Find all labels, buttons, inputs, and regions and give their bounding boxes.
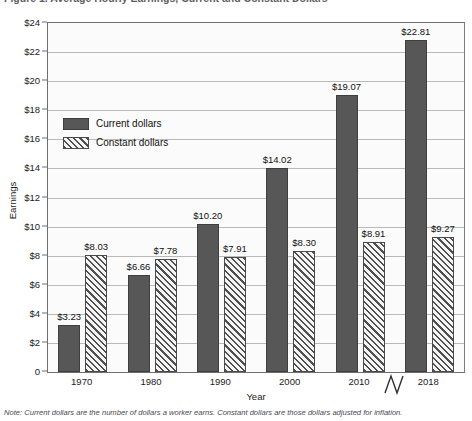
x-axis-tick-label: 2000 (279, 376, 300, 387)
bar-current-1970 (58, 325, 80, 372)
bar-value-label: $7.91 (223, 243, 247, 254)
gridline (48, 110, 464, 111)
x-axis-tick-label: 2018 (418, 376, 439, 387)
figure-title: Figure 1. Average Hourly Earnings, Curre… (0, 0, 472, 5)
bar-value-label: $6.66 (127, 261, 151, 272)
bar-constant-1990 (224, 257, 246, 372)
legend-label-constant: Constant dollars (96, 137, 168, 148)
x-axis-tick-label: 2010 (348, 376, 369, 387)
y-axis-tick-label: $2 (29, 336, 40, 347)
bar-current-2000 (266, 168, 288, 372)
legend-item-current: Current dollars (63, 115, 168, 132)
gridline (48, 81, 464, 82)
x-axis-tick-label: 1980 (140, 376, 161, 387)
bar-value-label: $8.30 (292, 237, 316, 248)
y-axis-tick-label: $16 (24, 133, 40, 144)
legend-swatch-constant-icon (63, 137, 89, 149)
bar-current-1980 (128, 275, 150, 372)
bar-constant-2018 (432, 237, 454, 372)
y-axis: Earnings 0$2$4$6$8$10$12$14$16$18$20$22$… (0, 22, 47, 373)
bar-value-label: $8.91 (362, 228, 386, 239)
x-axis-tick-label: 1990 (210, 376, 231, 387)
y-axis-tick-label: $12 (24, 191, 40, 202)
plot-area: $3.23$8.03$6.66$7.78$10.20$7.91$14.02$8.… (47, 22, 465, 373)
y-axis-tick-label: $22 (24, 46, 40, 57)
bar-value-label: $22.81 (401, 26, 430, 37)
bar-value-label: $19.07 (332, 81, 361, 92)
gridline (48, 285, 464, 286)
bar-value-label: $3.23 (57, 311, 81, 322)
gridline (48, 256, 464, 257)
bar-value-label: $9.27 (431, 223, 455, 234)
y-axis-tick-label: $20 (24, 75, 40, 86)
y-axis-tick-label: $4 (29, 307, 40, 318)
y-axis-tick-label: $8 (29, 249, 40, 260)
figure-note: Note: Current dollars are the number of … (4, 408, 470, 417)
y-axis-title: Earnings (7, 171, 18, 231)
bar-value-label: $8.03 (84, 241, 108, 252)
bar-current-2018 (405, 40, 427, 372)
bar-value-label: $7.78 (154, 245, 178, 256)
legend-label-current: Current dollars (96, 118, 162, 129)
gridline (48, 314, 464, 315)
bar-value-label: $10.20 (193, 210, 222, 221)
gridline (48, 227, 464, 228)
y-axis-tick-label: $6 (29, 278, 40, 289)
figure-title-text: Figure 1. Average Hourly Earnings, Curre… (0, 0, 472, 5)
bar-value-label: $14.02 (263, 154, 292, 165)
gridline (48, 52, 464, 53)
gridline (48, 168, 464, 169)
bar-constant-1970 (85, 255, 107, 372)
legend-swatch-current-icon (63, 118, 89, 130)
bar-constant-1980 (155, 259, 177, 372)
y-axis-tick-label: $10 (24, 220, 40, 231)
y-axis-tick-label: $24 (24, 17, 40, 28)
y-axis-tick-label: 0 (35, 366, 40, 377)
bar-current-2010 (336, 95, 358, 372)
y-axis-tick-label: $14 (24, 162, 40, 173)
bar-current-1990 (197, 224, 219, 372)
legend: Current dollars Constant dollars (63, 115, 168, 153)
gridline (48, 343, 464, 344)
x-axis-tick-label: 1970 (71, 376, 92, 387)
gridline (48, 198, 464, 199)
bar-constant-2000 (293, 251, 315, 372)
bar-constant-2010 (363, 242, 385, 372)
y-axis-tick-label: $18 (24, 104, 40, 115)
x-axis-title: Year (47, 391, 465, 402)
legend-item-constant: Constant dollars (63, 134, 168, 151)
